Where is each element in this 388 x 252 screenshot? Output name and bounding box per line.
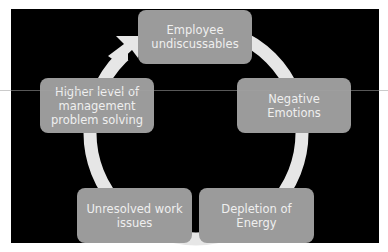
node-label-line: undiscussables — [151, 37, 238, 51]
node-negative-emotions: Negative Emotions — [237, 78, 351, 133]
scan-artifact-line — [0, 90, 388, 91]
node-label-line: Employee — [151, 23, 238, 37]
node-label-line: issues — [86, 216, 182, 230]
node-label-line: Energy — [221, 216, 291, 230]
node-depletion-of-energy: Depletion of Energy — [199, 188, 314, 243]
node-label-line: management — [51, 99, 143, 113]
node-label-line: Depletion of — [221, 202, 291, 216]
node-label-line: problem solving — [51, 113, 143, 127]
node-label-line: Higher level of — [51, 85, 143, 99]
node-unresolved-work-issues: Unresolved work issues — [77, 188, 192, 243]
node-label-line: Unresolved work — [86, 202, 182, 216]
node-label-line: Negative Emotions — [243, 92, 345, 120]
node-employee-undiscussables: Employee undiscussables — [138, 10, 252, 64]
node-higher-level-management-problem-solving: Higher level of management problem solvi… — [40, 78, 154, 133]
